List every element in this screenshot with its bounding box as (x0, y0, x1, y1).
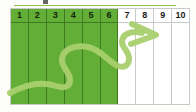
step-column-4[interactable]: 4 (65, 9, 83, 104)
step-column-2[interactable]: 2 (29, 9, 47, 104)
step-cell-body (136, 23, 153, 104)
step-column-9[interactable]: 9 (154, 9, 172, 104)
step-number-label: 3 (47, 9, 64, 23)
step-cell-body (154, 23, 171, 104)
step-number-label: 10 (172, 9, 189, 23)
step-column-5[interactable]: 5 (83, 9, 101, 104)
top-marker-icon (43, 0, 48, 4)
step-column-7[interactable]: 7 (118, 9, 136, 104)
step-number-label: 8 (136, 9, 153, 23)
step-column-3[interactable]: 3 (47, 9, 65, 104)
step-number-label: 5 (83, 9, 100, 23)
step-number-label: 4 (65, 9, 82, 23)
step-number-label: 2 (29, 9, 46, 23)
step-cell-body (47, 23, 64, 104)
top-divider-rule (14, 5, 176, 6)
step-cell-body (118, 23, 135, 104)
step-number-label: 1 (11, 9, 28, 23)
step-number-label: 6 (101, 9, 118, 23)
step-cell-body (172, 23, 189, 104)
step-cell-body (29, 23, 46, 104)
step-cell-body (83, 23, 100, 104)
step-column-8[interactable]: 8 (136, 9, 154, 104)
step-grid: 12345678910 (10, 8, 190, 105)
progress-tracker-graphic: 12345678910 (0, 0, 196, 112)
step-column-10[interactable]: 10 (172, 9, 189, 104)
step-column-1[interactable]: 1 (11, 9, 29, 104)
step-cell-body (101, 23, 118, 104)
step-column-6[interactable]: 6 (101, 9, 119, 104)
step-cell-body (65, 23, 82, 104)
step-number-label: 7 (118, 9, 135, 23)
step-cell-body (11, 23, 28, 104)
step-number-label: 9 (154, 9, 171, 23)
